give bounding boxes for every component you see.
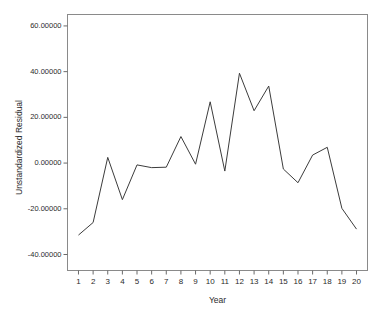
y-tick-label: 40.00000 xyxy=(30,67,61,76)
x-axis-title: Year xyxy=(68,295,368,305)
plot-frame xyxy=(68,15,368,271)
x-axis-ticks xyxy=(78,271,356,275)
x-tick-label: 20 xyxy=(347,277,367,286)
y-axis-ticks xyxy=(64,26,68,255)
y-tick-label: -20.00000 xyxy=(28,204,62,213)
y-tick-label: -40.00000 xyxy=(28,250,62,259)
y-axis-title: Unstandardized Residual xyxy=(14,100,24,195)
residual-line-chart: 60.0000040.0000020.000000.00000-20.00000… xyxy=(0,0,383,320)
y-tick-label: 60.00000 xyxy=(30,21,61,30)
y-tick-label: 0.00000 xyxy=(34,158,61,167)
y-tick-label: 20.00000 xyxy=(30,112,61,121)
